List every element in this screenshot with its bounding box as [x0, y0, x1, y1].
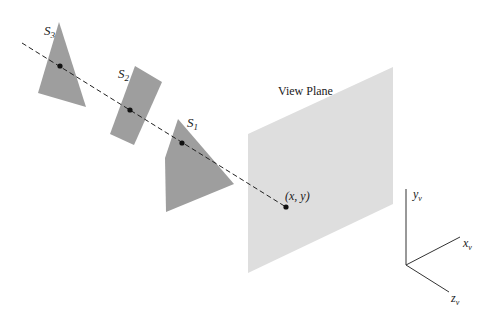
label-s2: S2 — [118, 66, 130, 83]
z-axis-label: zv — [450, 291, 460, 307]
point-xy — [283, 204, 288, 209]
x-axis-label: xv — [462, 236, 472, 252]
x-axis — [406, 237, 460, 265]
surface-s1 — [165, 119, 234, 212]
view-plane-label: View Plane — [278, 84, 333, 98]
point-s3 — [57, 63, 62, 68]
diagram-svg: S3 S2 S1 View Plane (x, y) yv xv zv — [0, 0, 488, 312]
point-s2 — [127, 107, 132, 112]
point-s1 — [179, 140, 184, 145]
axes — [406, 189, 460, 292]
label-s3: S3 — [44, 23, 56, 40]
z-axis — [406, 265, 449, 292]
point-xy-label: (x, y) — [285, 189, 310, 203]
diagram-canvas: S3 S2 S1 View Plane (x, y) yv xv zv — [0, 0, 488, 312]
y-axis-label: yv — [412, 187, 422, 203]
label-s1: S1 — [187, 115, 198, 132]
